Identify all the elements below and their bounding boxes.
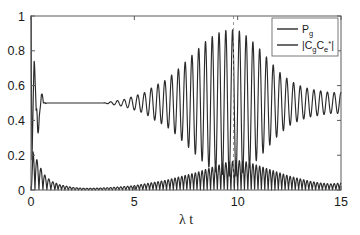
x-tick-label-3: 15 — [334, 195, 348, 209]
figure-container: 05101500.20.40.60.81λ tPg|CgCe*| — [0, 0, 360, 235]
y-tick-label-0: 0 — [18, 184, 25, 198]
y-tick-label-2: 0.4 — [8, 114, 25, 128]
chart-canvas: 05101500.20.40.60.81λ tPg|CgCe*| — [0, 0, 360, 235]
y-tick-label-1: 0.2 — [8, 149, 25, 163]
y-tick-label-4: 0.8 — [8, 44, 25, 58]
x-tick-label-0: 0 — [28, 195, 35, 209]
x-axis-label: λ t — [179, 212, 193, 227]
y-tick-label-5: 1 — [18, 10, 25, 24]
y-tick-label-3: 0.6 — [8, 79, 25, 93]
x-tick-label-2: 10 — [231, 195, 245, 209]
x-tick-label-1: 5 — [131, 195, 138, 209]
